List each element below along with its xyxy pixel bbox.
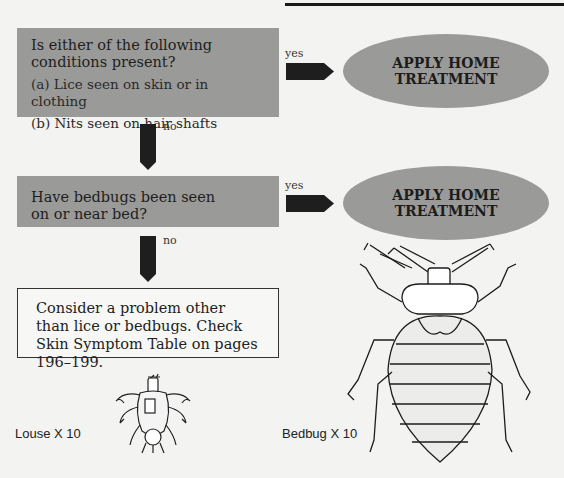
question-1-no-label: no — [163, 120, 177, 133]
right-arrow-icon — [286, 63, 334, 84]
question-2-text: Have bedbugs been seen on or near bed? — [31, 189, 231, 223]
question-1-option-a: (a) Lice seen on skin or in clothing — [31, 76, 265, 110]
right-arrow-icon — [286, 195, 334, 216]
final-recommendation-box: Consider a problem other than lice or be… — [17, 288, 279, 358]
outcome-apply-home-treatment-1: APPLY HOME TREATMENT — [343, 34, 549, 108]
bedbug-drawing-icon — [340, 240, 540, 474]
question-1-text: Is either of the following conditions pr… — [31, 37, 265, 71]
question-2-box: Have bedbugs been seen on or near bed? — [17, 176, 279, 227]
final-recommendation-text: Consider a problem other than lice or be… — [36, 300, 258, 370]
outcome-apply-home-treatment-2: APPLY HOME TREATMENT — [343, 166, 549, 240]
outcome-2-text: APPLY HOME TREATMENT — [386, 187, 506, 219]
louse-drawing-icon — [110, 373, 196, 459]
question-1-box: Is either of the following conditions pr… — [17, 28, 279, 117]
top-rule — [285, 3, 564, 6]
down-arrow-icon — [140, 236, 156, 282]
down-arrow-icon — [140, 124, 156, 170]
question-2-yes-label: yes — [285, 179, 303, 192]
question-2-no-label: no — [163, 234, 177, 247]
question-1-yes-label: yes — [285, 47, 303, 60]
louse-caption: Louse X 10 — [15, 426, 81, 441]
outcome-1-text: APPLY HOME TREATMENT — [386, 55, 506, 87]
